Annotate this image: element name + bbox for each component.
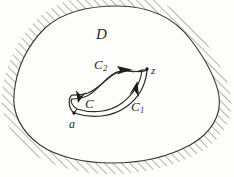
label-path-c1-subscript: 1 [140, 105, 144, 115]
label-path-c2: C2 [94, 58, 107, 73]
label-path-c1: C1 [131, 100, 144, 115]
label-domain-D: D [96, 27, 107, 42]
point-z-marker [145, 67, 148, 70]
label-path-c2-base: C [94, 57, 103, 72]
label-path-c2-subscript: 2 [103, 63, 107, 73]
label-path-c1-base: C [131, 99, 140, 114]
point-a-marker [72, 111, 75, 114]
figure-container: D C2 z C C1 a [0, 0, 234, 177]
label-point-a: a [69, 118, 75, 130]
diagram-canvas [0, 0, 234, 177]
label-contour-c: C [85, 97, 94, 110]
label-point-z: z [151, 65, 155, 76]
